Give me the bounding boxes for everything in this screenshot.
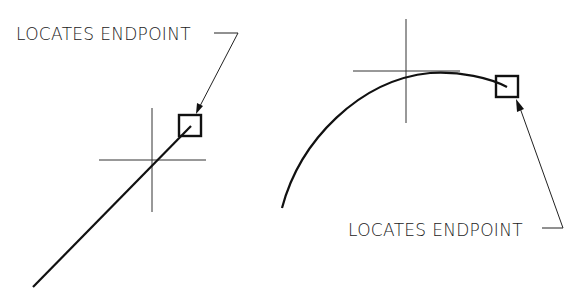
leader-line — [516, 99, 563, 228]
crosshair-cursor-icon — [353, 19, 460, 123]
left-label: LOCATES ENDPOINT — [16, 24, 191, 44]
line-object — [33, 126, 191, 287]
crosshair-cursor-icon — [99, 108, 206, 212]
left-figure: LOCATES ENDPOINT — [16, 24, 238, 287]
arc-object — [282, 73, 507, 208]
osnap-endpoint-diagram: LOCATES ENDPOINT LOCATES ENDPOINT — [0, 0, 588, 302]
arrowhead-icon — [516, 99, 524, 112]
right-label: LOCATES ENDPOINT — [348, 220, 523, 240]
right-figure: LOCATES ENDPOINT — [282, 19, 563, 240]
leader-line — [196, 33, 238, 114]
arrowhead-icon — [196, 103, 203, 114]
